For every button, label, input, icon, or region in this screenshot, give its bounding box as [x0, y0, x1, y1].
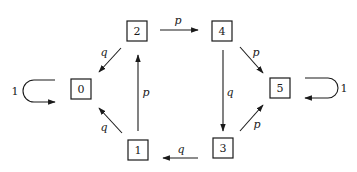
edge-label-2-0: q: [100, 46, 107, 59]
edge-3-to-5: p: [240, 105, 263, 131]
edge-label-3-5: p: [253, 118, 260, 131]
edge-label-5-5: 1: [341, 82, 348, 95]
edge-label-4-3: q: [226, 86, 233, 99]
self-loop-0: 1: [12, 80, 56, 102]
node-label-4: 4: [219, 25, 226, 38]
node-4: 4: [212, 21, 232, 41]
edge-label-1-0: q: [100, 121, 107, 134]
edge-3-to-1: q: [163, 143, 198, 159]
edge-label-3-1: q: [177, 143, 184, 156]
edge-1-to-0: q: [99, 108, 122, 134]
node-label-3: 3: [220, 142, 227, 155]
node-3: 3: [213, 138, 233, 158]
edge-label-4-5: p: [252, 46, 259, 59]
edge-4-to-3: q: [223, 50, 234, 131]
node-label-2: 2: [134, 25, 141, 38]
edge-2-to-4: p: [160, 14, 198, 31]
edge-1-to-2: p: [138, 55, 150, 131]
self-loop-5: 1: [305, 78, 348, 98]
node-1: 1: [128, 140, 148, 160]
edge-label-0-0: 1: [12, 85, 19, 98]
node-5: 5: [270, 78, 290, 98]
edge-2-to-0: q: [99, 46, 121, 73]
node-label-5: 5: [277, 82, 284, 95]
node-2: 2: [127, 21, 147, 41]
node-0: 0: [71, 79, 91, 99]
state-diagram: p q p q q q p p 1 1 0 1: [0, 0, 357, 172]
edge-4-to-5: p: [240, 46, 263, 74]
node-label-1: 1: [135, 144, 142, 157]
node-label-0: 0: [78, 83, 85, 96]
edge-label-2-4: p: [174, 14, 181, 27]
edge-label-1-2: p: [142, 86, 149, 99]
